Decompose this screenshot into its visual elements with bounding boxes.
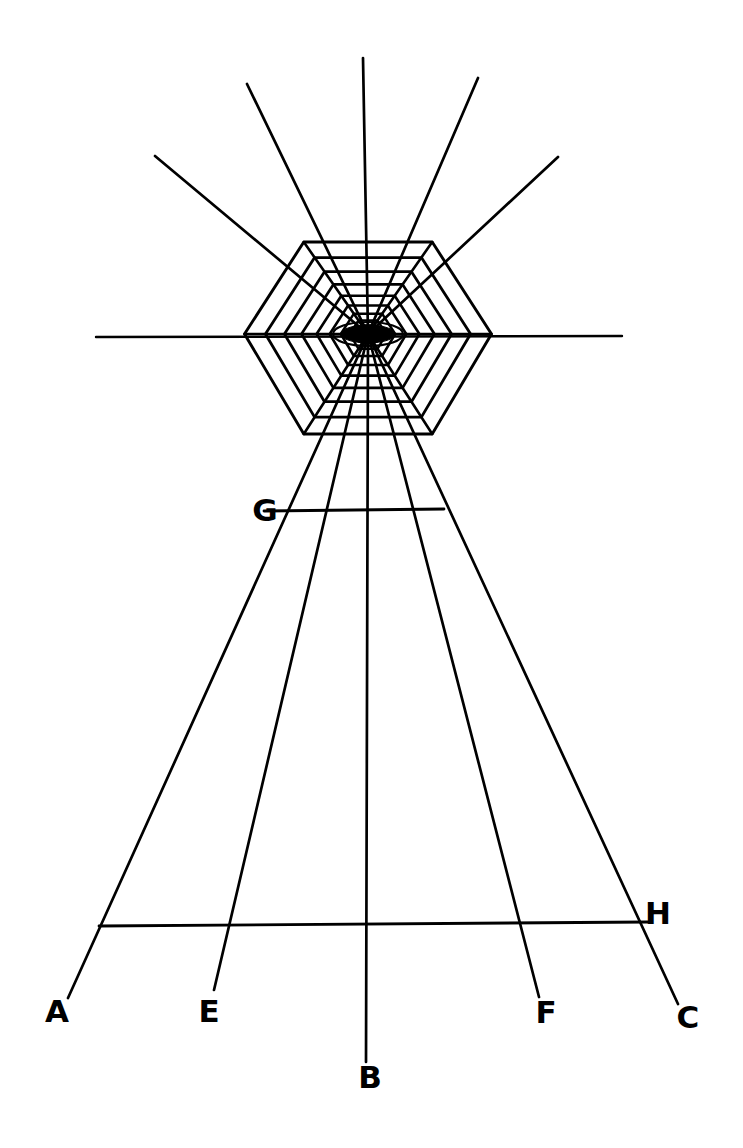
perspective-web-diagram: AEBFCGH [0, 0, 743, 1148]
label-A: A [45, 993, 69, 1029]
label-E: E [198, 993, 219, 1029]
label-H: H [645, 895, 671, 931]
hub-filled-ellipse [341, 325, 395, 343]
label-G: G [252, 492, 277, 528]
figure-root: AEBFCGH [0, 0, 743, 1148]
label-B: B [358, 1059, 382, 1095]
label-F: F [535, 994, 556, 1030]
vanishing-point-hub [333, 322, 403, 346]
label-C: C [677, 999, 700, 1035]
figure-background [0, 0, 743, 1148]
transversal-G [264, 509, 444, 511]
